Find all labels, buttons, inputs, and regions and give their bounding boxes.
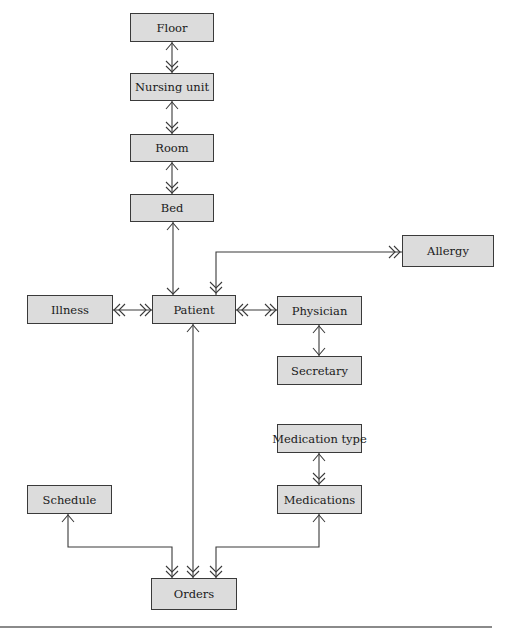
link-floor-nursing-unit bbox=[166, 42, 178, 73]
link-nursing-unit-room bbox=[166, 101, 178, 134]
link-illness-patient bbox=[113, 304, 152, 316]
bottom-rule-divider bbox=[0, 626, 492, 628]
link-physician-secretary bbox=[313, 325, 325, 356]
entity-floor: Floor bbox=[130, 13, 214, 42]
link-room-bed bbox=[166, 162, 178, 194]
entity-room: Room bbox=[130, 134, 214, 162]
entity-illness: Illness bbox=[27, 295, 113, 324]
link-patient-allergy bbox=[210, 246, 402, 295]
link-bed-patient bbox=[167, 222, 179, 295]
entity-medication-type: Medication type bbox=[277, 424, 362, 453]
er-diagram: Floor Nursing unit Room Bed Allergy Illn… bbox=[0, 0, 509, 633]
entity-secretary: Secretary bbox=[277, 356, 362, 385]
link-medication-type-medications bbox=[313, 453, 325, 485]
entity-schedule: Schedule bbox=[27, 485, 112, 514]
entity-patient: Patient bbox=[152, 295, 236, 324]
entity-nursing-unit: Nursing unit bbox=[130, 73, 214, 101]
entity-orders: Orders bbox=[151, 578, 237, 610]
entity-bed: Bed bbox=[130, 194, 214, 222]
entity-allergy: Allergy bbox=[402, 235, 494, 267]
entity-medications: Medications bbox=[277, 485, 362, 514]
entity-physician: Physician bbox=[277, 296, 362, 325]
link-patient-orders bbox=[187, 324, 199, 578]
link-patient-physician bbox=[236, 304, 277, 316]
link-schedule-orders bbox=[62, 514, 178, 578]
link-medications-orders bbox=[210, 514, 325, 578]
